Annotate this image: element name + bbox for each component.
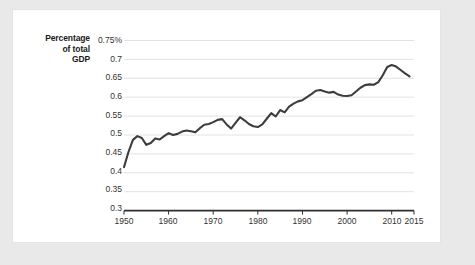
- y-axis-title: Percentage of total GDP: [18, 33, 90, 65]
- y-tick-label: 0.3: [88, 204, 122, 213]
- y-tick-label: 0.5: [88, 129, 122, 138]
- y-tick-label: 0.55: [88, 111, 122, 120]
- y-tick-label: 0.7: [88, 55, 122, 64]
- line-chart: Percentage of total GDP 0.75% 0.7 0.65 0…: [0, 0, 475, 265]
- x-tick-label: 1950: [110, 217, 138, 226]
- y-tick-label: 0.4: [88, 167, 122, 176]
- x-tick-label: 1990: [288, 217, 316, 226]
- x-tick-label: 1970: [199, 217, 227, 226]
- y-tick-label: 0.75%: [88, 36, 122, 45]
- y-axis-title-line-1: Percentage: [18, 33, 90, 44]
- y-tick-label: 0.65: [88, 73, 122, 82]
- x-tick-label: 2000: [333, 217, 361, 226]
- y-axis-title-line-2: of total: [18, 44, 90, 55]
- y-tick-label: 0.6: [88, 92, 122, 101]
- x-tick-label: 1960: [154, 217, 182, 226]
- x-tick-label: 1980: [244, 217, 272, 226]
- x-tick-label: 2015: [400, 217, 428, 226]
- y-tick-label: 0.45: [88, 148, 122, 157]
- y-axis-title-line-3: GDP: [18, 54, 90, 65]
- y-tick-label: 0.35: [88, 185, 122, 194]
